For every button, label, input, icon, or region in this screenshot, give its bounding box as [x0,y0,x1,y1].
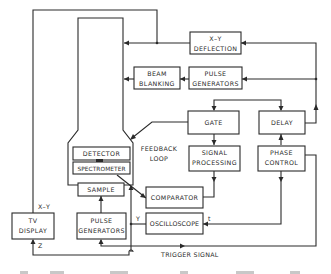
arrow-icon [212,177,217,182]
arrow-icon [124,77,129,82]
gate-delay-top-line [214,100,281,110]
block-gate: GATE [188,111,239,134]
svg-text:BEAM: BEAM [147,70,167,77]
arrow-icon [99,196,104,201]
arrow-icon [203,222,208,227]
feedback-loop-label: LOOP [150,155,169,162]
svg-text:GATE: GATE [204,119,222,126]
svg-text:PULSE: PULSE [205,70,227,77]
tv-xy-input-label: X–Y [38,203,50,210]
block-phase-control: PHASE CONTROL [258,146,305,171]
svg-text:TV: TV [28,217,38,224]
tv-z-input-label: Z [38,242,43,249]
svg-text:OSCILLOSCOPE: OSCILLOSCOPE [150,220,199,227]
arrow-icon [124,41,129,46]
arrow-icon [279,134,284,140]
svg-text:GENERATORS: GENERATORS [192,80,239,87]
oscilloscope-t-label: t [208,215,211,222]
arrow-icon [99,239,104,244]
block-oscilloscope: OSCILLOSCOPE [146,213,203,234]
svg-text:DETECTOR: DETECTOR [83,150,121,157]
svg-text:SIGNAL: SIGNAL [202,149,228,156]
block-pulse-generators-top: PULSE GENERATORS [189,67,242,89]
z-input-line [33,240,129,255]
svg-text:SPECTROMETER: SPECTROMETER [77,166,125,172]
block-signal-processing: SIGNAL PROCESSING [189,146,240,171]
svg-text:SAMPLE: SAMPLE [87,186,115,193]
signal-to-comparator-line [203,171,214,197]
feedback-loop-line [132,122,188,138]
svg-text:DELAY: DELAY [271,119,293,126]
block-delay: DELAY [259,111,305,134]
arrow-icon [241,41,246,46]
block-pulse-generators-bottom: PULSE GENERATORS [77,213,126,239]
svg-text:PULSE: PULSE [91,217,113,224]
svg-text:PROCESSING: PROCESSING [192,159,237,166]
trigger-signal-label: TRIGGER SIGNAL [160,251,219,258]
arrow-icon [279,106,284,111]
svg-text:PHASE: PHASE [270,149,293,156]
block-spectrometer: SPECTROMETER [73,162,130,174]
feedback-loop-label: FEEDBACK [141,145,178,152]
arrow-icon [279,177,284,182]
arrow-icon [180,244,185,249]
svg-text:X–Y: X–Y [209,35,222,42]
arrow-icon [31,239,36,244]
block-beam-blanking: BEAM BLANKING [134,67,180,89]
svg-text:GENERATORS: GENERATORS [78,227,125,234]
arrow-icon [212,106,217,111]
block-tv-display: TV DISPLAY [12,213,54,239]
block-comparator: COMPARATOR [146,187,203,208]
oscilloscope-y-label: Y [135,215,140,222]
block-diagram: X–Y DEFLECTION BEAM BLANKING PULSE GENER… [0,0,331,274]
svg-text:DEFLECTION: DEFLECTION [194,45,238,52]
svg-text:CONTROL: CONTROL [265,159,299,166]
block-xy-deflection: X–Y DEFLECTION [190,32,241,54]
arrow-icon [242,77,247,82]
svg-text:COMPARATOR: COMPARATOR [151,194,199,201]
svg-text:DISPLAY: DISPLAY [19,227,48,234]
junction-dot [130,223,133,226]
arrow-icon [314,104,319,110]
junction-dot [315,78,318,81]
block-detector: DETECTOR [73,147,130,160]
arrow-icon [180,77,185,82]
svg-text:BLANKING: BLANKING [139,80,175,87]
block-sample: SAMPLE [78,183,124,196]
arrow-icon [212,140,217,145]
